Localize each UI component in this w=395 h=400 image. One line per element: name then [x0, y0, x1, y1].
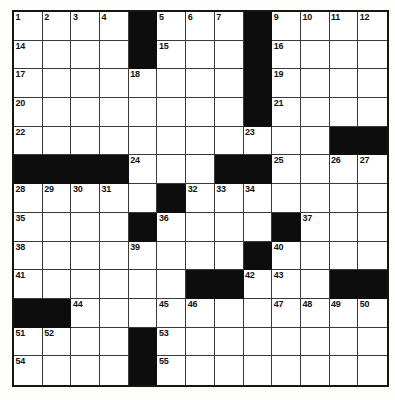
- letter-cell[interactable]: 49: [330, 299, 359, 328]
- letter-cell[interactable]: [71, 242, 100, 271]
- letter-cell[interactable]: 10: [301, 12, 330, 41]
- letter-cell[interactable]: [301, 41, 330, 70]
- letter-cell[interactable]: [301, 270, 330, 299]
- letter-cell[interactable]: 44: [71, 299, 100, 328]
- letter-cell[interactable]: 42: [244, 270, 273, 299]
- letter-cell[interactable]: 48: [301, 299, 330, 328]
- letter-cell[interactable]: [71, 41, 100, 70]
- letter-cell[interactable]: 39: [129, 242, 158, 271]
- letter-cell[interactable]: [186, 69, 215, 98]
- letter-cell[interactable]: 53: [157, 328, 186, 357]
- letter-cell[interactable]: 45: [157, 299, 186, 328]
- letter-cell[interactable]: 11: [330, 12, 359, 41]
- letter-cell[interactable]: [43, 69, 72, 98]
- letter-cell[interactable]: 9: [272, 12, 301, 41]
- letter-cell[interactable]: 29: [43, 184, 72, 213]
- letter-cell[interactable]: 34: [244, 184, 273, 213]
- letter-cell[interactable]: [186, 98, 215, 127]
- letter-cell[interactable]: [129, 299, 158, 328]
- letter-cell[interactable]: [215, 127, 244, 156]
- letter-cell[interactable]: [215, 299, 244, 328]
- letter-cell[interactable]: 37: [301, 213, 330, 242]
- letter-cell[interactable]: 23: [244, 127, 273, 156]
- letter-cell[interactable]: 47: [272, 299, 301, 328]
- letter-cell[interactable]: [330, 69, 359, 98]
- letter-cell[interactable]: [100, 41, 129, 70]
- letter-cell[interactable]: 5: [157, 12, 186, 41]
- letter-cell[interactable]: 30: [71, 184, 100, 213]
- letter-cell[interactable]: [330, 242, 359, 271]
- letter-cell[interactable]: [186, 213, 215, 242]
- letter-cell[interactable]: [301, 127, 330, 156]
- letter-cell[interactable]: [129, 127, 158, 156]
- letter-cell[interactable]: [330, 98, 359, 127]
- letter-cell[interactable]: [43, 98, 72, 127]
- letter-cell[interactable]: [330, 213, 359, 242]
- letter-cell[interactable]: [244, 356, 273, 385]
- letter-cell[interactable]: 24: [129, 155, 158, 184]
- letter-cell[interactable]: [43, 356, 72, 385]
- letter-cell[interactable]: [186, 155, 215, 184]
- letter-cell[interactable]: [100, 299, 129, 328]
- letter-cell[interactable]: [100, 270, 129, 299]
- letter-cell[interactable]: 27: [358, 155, 387, 184]
- letter-cell[interactable]: [215, 69, 244, 98]
- letter-cell[interactable]: [157, 98, 186, 127]
- letter-cell[interactable]: [186, 127, 215, 156]
- letter-cell[interactable]: [129, 270, 158, 299]
- letter-cell[interactable]: [157, 69, 186, 98]
- letter-cell[interactable]: 16: [272, 41, 301, 70]
- letter-cell[interactable]: 22: [14, 127, 43, 156]
- letter-cell[interactable]: [301, 184, 330, 213]
- letter-cell[interactable]: 6: [186, 12, 215, 41]
- letter-cell[interactable]: [157, 242, 186, 271]
- letter-cell[interactable]: 33: [215, 184, 244, 213]
- letter-cell[interactable]: [358, 41, 387, 70]
- letter-cell[interactable]: [358, 213, 387, 242]
- letter-cell[interactable]: [301, 98, 330, 127]
- letter-cell[interactable]: 31: [100, 184, 129, 213]
- letter-cell[interactable]: [301, 356, 330, 385]
- letter-cell[interactable]: [244, 299, 273, 328]
- letter-cell[interactable]: 54: [14, 356, 43, 385]
- letter-cell[interactable]: 3: [71, 12, 100, 41]
- letter-cell[interactable]: 21: [272, 98, 301, 127]
- letter-cell[interactable]: [71, 356, 100, 385]
- letter-cell[interactable]: [100, 328, 129, 357]
- letter-cell[interactable]: [71, 69, 100, 98]
- letter-cell[interactable]: [215, 213, 244, 242]
- letter-cell[interactable]: [301, 242, 330, 271]
- letter-cell[interactable]: 7: [215, 12, 244, 41]
- letter-cell[interactable]: 28: [14, 184, 43, 213]
- letter-cell[interactable]: [301, 69, 330, 98]
- letter-cell[interactable]: [100, 356, 129, 385]
- letter-cell[interactable]: [244, 213, 273, 242]
- letter-cell[interactable]: [330, 184, 359, 213]
- letter-cell[interactable]: 12: [358, 12, 387, 41]
- letter-cell[interactable]: 19: [272, 69, 301, 98]
- letter-cell[interactable]: [100, 69, 129, 98]
- letter-cell[interactable]: [129, 184, 158, 213]
- letter-cell[interactable]: [71, 98, 100, 127]
- letter-cell[interactable]: [186, 356, 215, 385]
- letter-cell[interactable]: [215, 242, 244, 271]
- letter-cell[interactable]: 46: [186, 299, 215, 328]
- letter-cell[interactable]: 20: [14, 98, 43, 127]
- letter-cell[interactable]: [215, 98, 244, 127]
- letter-cell[interactable]: [330, 328, 359, 357]
- letter-cell[interactable]: 1: [14, 12, 43, 41]
- letter-cell[interactable]: 38: [14, 242, 43, 271]
- letter-cell[interactable]: 4: [100, 12, 129, 41]
- letter-cell[interactable]: [301, 328, 330, 357]
- letter-cell[interactable]: 17: [14, 69, 43, 98]
- letter-cell[interactable]: [100, 98, 129, 127]
- letter-cell[interactable]: [272, 356, 301, 385]
- letter-cell[interactable]: 55: [157, 356, 186, 385]
- letter-cell[interactable]: 35: [14, 213, 43, 242]
- letter-cell[interactable]: [330, 41, 359, 70]
- letter-cell[interactable]: [100, 242, 129, 271]
- letter-cell[interactable]: [330, 356, 359, 385]
- letter-cell[interactable]: [358, 356, 387, 385]
- letter-cell[interactable]: [71, 270, 100, 299]
- letter-cell[interactable]: [71, 127, 100, 156]
